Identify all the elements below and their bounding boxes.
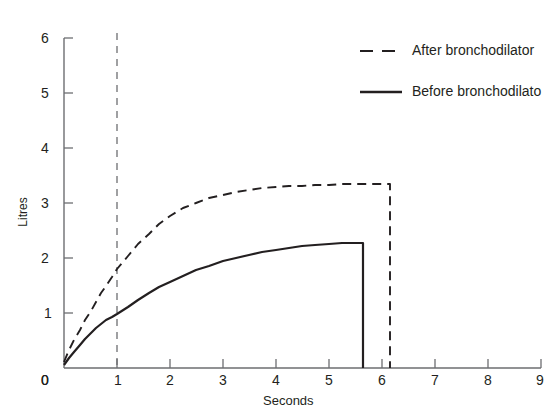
series-before-bronchodilator-curve [64,243,363,368]
x-tick-label-8: 8 [484,373,492,387]
x-tick-label-9: 9 [536,373,544,387]
spirometry-chart-figure: 6 5 4 3 2 1 0 0 1 2 3 4 5 6 7 8 9 Litres… [0,0,544,420]
legend-item-before-bronchodilator: Before bronchodilato [402,84,541,98]
legend-label-before-bronchodilator: Before bronchodilato [412,84,541,98]
x-tick-label-0: 0 [41,373,49,387]
legend-label-after-bronchodilator: After bronchodilator [412,43,534,57]
x-tick-label-5: 5 [325,373,333,387]
y-tick-label-4: 4 [41,141,49,155]
legend-item-after-bronchodilator: After bronchodilator [402,43,534,57]
x-tick-label-3: 3 [219,373,227,387]
y-axis-ticks [64,38,73,313]
x-tick-label-2: 2 [166,373,174,387]
x-axis-ticks [117,359,541,368]
chart-plot-area [0,0,544,420]
y-tick-label-3: 3 [41,196,49,210]
x-tick-label-4: 4 [272,373,280,387]
x-axis-title: Seconds [263,394,314,407]
y-tick-label-1: 1 [44,306,52,320]
y-tick-label-2: 2 [41,251,49,265]
x-tick-label-7: 7 [431,373,439,387]
y-tick-label-6: 6 [41,31,49,45]
y-tick-label-5: 5 [41,86,49,100]
series-after-bronchodilator-curve [64,184,390,368]
y-axis-title: Litres [17,186,29,238]
x-tick-label-1: 1 [114,373,122,387]
x-tick-label-6: 6 [378,373,386,387]
